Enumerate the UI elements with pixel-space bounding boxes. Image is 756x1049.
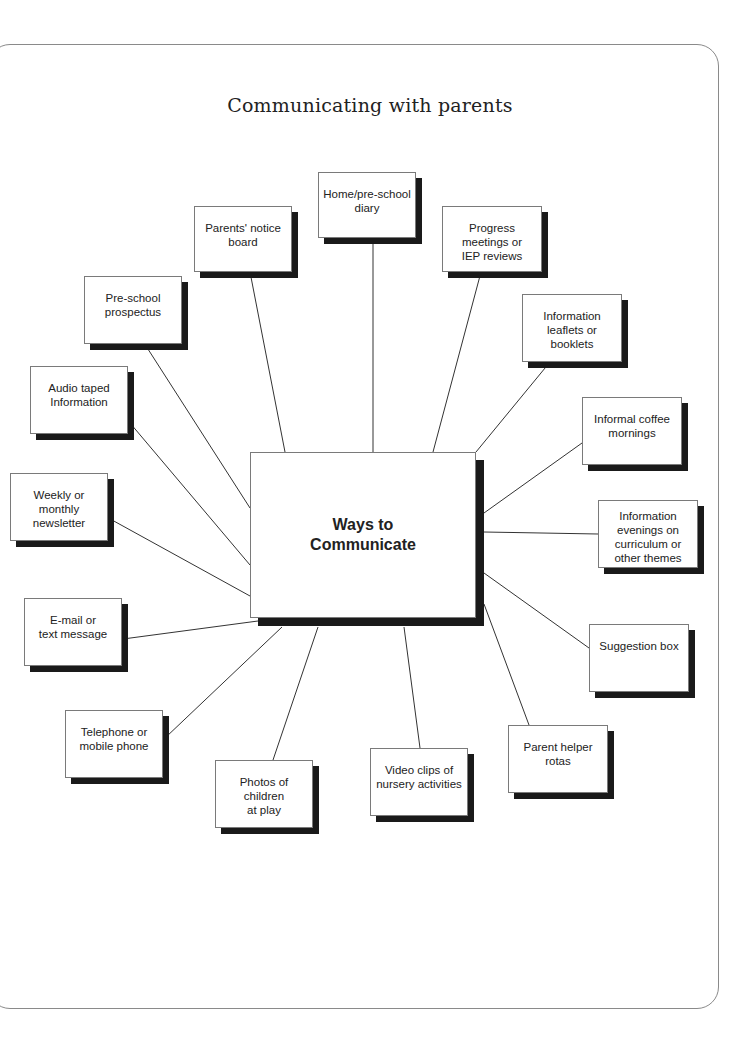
link-photos — [273, 627, 318, 760]
link-newsletter — [112, 520, 250, 596]
node-progress-meetings: Progressmeetings orIEP reviews — [442, 206, 542, 272]
central-node-line1: Ways to — [310, 515, 416, 535]
node-newsletter: Weekly or monthlynewsletter — [10, 473, 108, 541]
node-home-diary: Home/pre-schooldiary — [318, 172, 416, 238]
link-telephone — [165, 627, 282, 738]
node-email: E-mail ortext message — [24, 598, 122, 666]
node-coffee-mornings: Informal coffeemornings — [582, 397, 682, 465]
node-info-evenings: Informationevenings oncurriculum orother… — [598, 500, 698, 568]
node-notice-board: Parents' noticeboard — [194, 206, 292, 272]
node-telephone: Telephone ormobile phone — [65, 710, 163, 778]
link-suggestion-box — [484, 573, 589, 648]
link-leaflets — [476, 362, 550, 452]
node-suggestion-box: Suggestion box — [589, 624, 689, 692]
node-photos: Photos of childrenat play — [215, 760, 313, 828]
link-prospectus — [146, 346, 250, 508]
central-node: Ways to Communicate — [250, 452, 476, 618]
link-progress-meetings — [433, 272, 481, 452]
node-video-clips: Video clips ofnursery activities — [370, 748, 468, 816]
link-info-evenings — [484, 532, 598, 534]
link-audio — [130, 423, 250, 565]
link-coffee-mornings — [484, 443, 582, 513]
node-leaflets: Informationleaflets orbooklets — [522, 294, 622, 362]
node-parent-helper: Parent helperrotas — [508, 725, 608, 793]
node-audio: Audio tapedInformation — [30, 366, 128, 434]
link-email — [123, 621, 258, 639]
node-prospectus: Pre-schoolprospectus — [84, 276, 182, 344]
link-notice-board — [250, 272, 285, 452]
link-video-clips — [404, 627, 420, 748]
central-node-line2: Communicate — [310, 535, 416, 555]
link-parent-helper — [484, 604, 529, 725]
